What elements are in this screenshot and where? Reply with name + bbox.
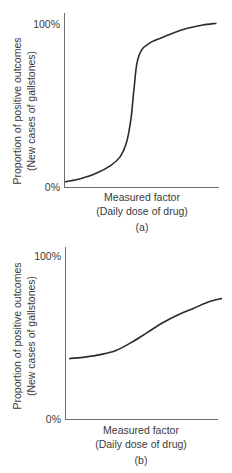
chart-b-xlabel: Measured factor (103, 424, 179, 436)
chart-a-curve (65, 23, 217, 182)
chart-b-caption: (b) (135, 454, 148, 466)
chart-b-ylabel: Proportion of positive outcomes (11, 262, 23, 409)
chart-a-xlabel-sub: (Daily dose of drug) (96, 205, 188, 217)
chart-a-caption: (a) (136, 221, 149, 233)
chart-b-ylabel-sub: (New cases of gallstones) (25, 276, 37, 396)
chart-a-ylabel: Proportion of positive outcomes (11, 37, 23, 184)
chart-b-ytick-0: 0% (21, 413, 61, 425)
chart-panel-a: 100% 0% Proportion of positive outcomes … (0, 0, 232, 236)
chart-a-xlabel: Measured factor (104, 191, 180, 203)
chart-a-ytick-100: 100% (20, 18, 60, 30)
chart-b-curve (69, 298, 222, 358)
chart-panel-b: 100% 0% Proportion of positive outcomes … (0, 236, 232, 473)
chart-a-ytick-0: 0% (20, 181, 60, 193)
chart-a-ylabel-sub: (New cases of gallstones) (25, 51, 37, 171)
chart-b-ytick-100: 100% (21, 250, 61, 262)
chart-b-xlabel-sub: (Daily dose of drug) (95, 438, 187, 450)
